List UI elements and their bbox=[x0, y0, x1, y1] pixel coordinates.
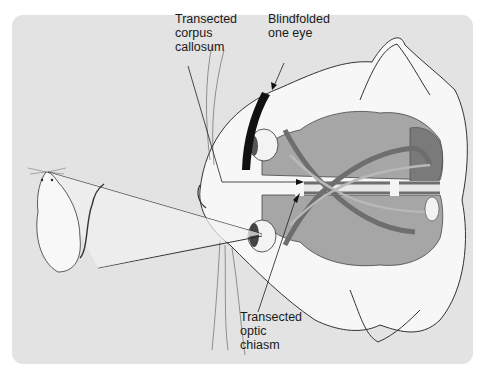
label-transected-optic-chiasm: Transected optic chiasm bbox=[240, 310, 302, 352]
label-transected-corpus-callosum: Transected corpus callosum bbox=[175, 12, 237, 54]
label-line: corpus bbox=[175, 26, 237, 40]
label-line: one eye bbox=[268, 26, 330, 40]
label-line: callosum bbox=[175, 40, 237, 54]
blindfold-pointer bbox=[274, 63, 284, 86]
label-line: optic bbox=[240, 324, 302, 338]
label-line: chiasm bbox=[240, 338, 302, 352]
label-line: Transected bbox=[240, 310, 302, 324]
label-line: Transected bbox=[175, 12, 237, 26]
label-blindfolded-one-eye: Blindfolded one eye bbox=[268, 12, 330, 40]
label-line: Blindfolded bbox=[268, 12, 330, 26]
